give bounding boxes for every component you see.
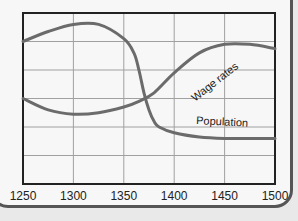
wage-rates-line	[23, 44, 275, 115]
x-tick-label: 1250	[10, 189, 37, 203]
x-tick-label: 1400	[161, 189, 188, 203]
x-tick-label: 1350	[110, 189, 137, 203]
x-tick-label: 1500	[262, 189, 289, 203]
wage-rates-label: Wage rates	[189, 59, 241, 103]
x-axis-ticks: 125013001350140014501500	[10, 189, 289, 203]
x-tick-label: 1450	[211, 189, 238, 203]
grid-lines	[23, 13, 275, 184]
x-tick-label: 1300	[60, 189, 87, 203]
line-chart: Wage rates Population 125013001350140014…	[0, 0, 298, 221]
